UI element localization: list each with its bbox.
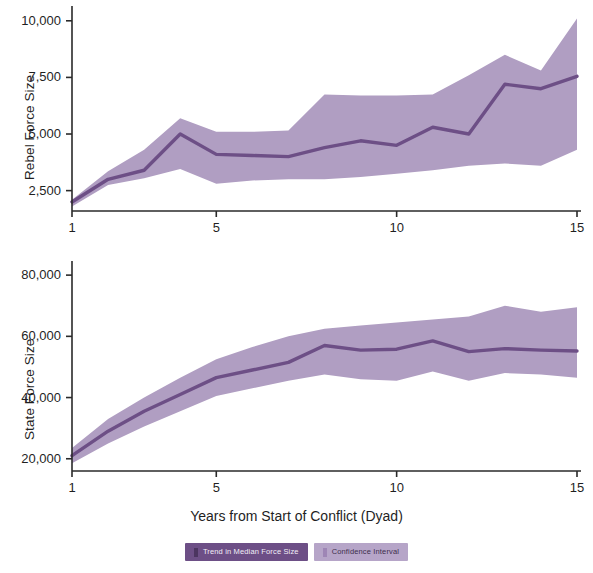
rebel-confidence-interval-band bbox=[72, 19, 577, 207]
x-tick-label: 10 bbox=[367, 480, 427, 495]
state-force-size-plot bbox=[0, 255, 593, 505]
legend-label-trend: Trend in Median Force Size bbox=[203, 547, 299, 557]
rebel-x-tick-marks bbox=[72, 211, 577, 217]
rebel-force-size-plot bbox=[0, 0, 593, 250]
rebel-y-tick-marks bbox=[66, 21, 72, 191]
x-tick-label: 1 bbox=[42, 220, 102, 235]
rebel-y-axis-title: Rebel Force Size bbox=[22, 75, 37, 180]
state-ci-band-group bbox=[72, 306, 577, 464]
legend-label-confidence-interval: Confidence Interval bbox=[332, 547, 399, 557]
x-axis-title: Years from Start of Conflict (Dyad) bbox=[0, 508, 593, 524]
y-tick-label: 10,000 bbox=[0, 13, 61, 28]
state-y-tick-marks bbox=[66, 275, 72, 459]
chart-legend: Trend in Median Force Size Confidence In… bbox=[0, 543, 593, 561]
y-tick-label: 80,000 bbox=[0, 267, 61, 282]
y-tick-label: 2,500 bbox=[0, 183, 61, 198]
state-x-tick-marks bbox=[72, 471, 577, 477]
x-tick-label: 1 bbox=[42, 480, 102, 495]
legend-swatch-ci-icon bbox=[323, 548, 327, 557]
force-size-figure: 2,5005,0007,50010,000 151015 Rebel Force… bbox=[0, 0, 593, 573]
legend-item-confidence-interval: Confidence Interval bbox=[314, 543, 408, 561]
legend-swatch-trend-icon bbox=[194, 548, 198, 557]
legend-item-trend: Trend in Median Force Size bbox=[185, 543, 308, 561]
x-tick-label: 15 bbox=[547, 220, 593, 235]
chart-panel-state-force-size: 20,00040,00060,00080,000 151015 bbox=[0, 255, 593, 505]
y-tick-label: 20,000 bbox=[0, 451, 61, 466]
state-confidence-interval-band bbox=[72, 306, 577, 464]
state-y-axis-title: State Force Size bbox=[22, 339, 37, 440]
chart-panel-rebel-force-size: 2,5005,0007,50010,000 151015 bbox=[0, 0, 593, 250]
x-tick-label: 15 bbox=[547, 480, 593, 495]
x-tick-label: 5 bbox=[186, 480, 246, 495]
x-tick-label: 10 bbox=[367, 220, 427, 235]
rebel-ci-band-group bbox=[72, 19, 577, 207]
x-tick-label: 5 bbox=[186, 220, 246, 235]
